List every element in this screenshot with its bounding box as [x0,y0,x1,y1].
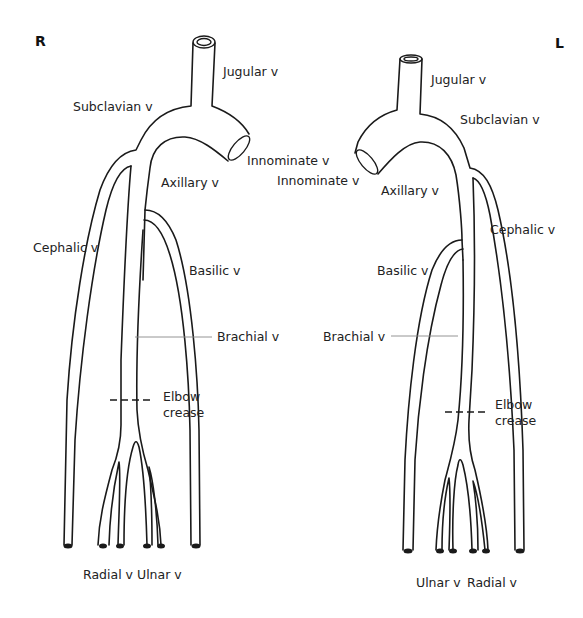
left-axillary-label: Axillary v [381,183,440,198]
right-elbow-label-line1: Elbow [163,389,200,404]
left-brachial-label: Brachial v [323,329,386,344]
left-inner-arch [378,142,463,260]
right-subclavian-label: Subclavian v [73,99,153,114]
right-radial-end-1 [99,544,107,549]
left-jugular-lumen [404,57,418,61]
right-basilic-end [192,544,201,549]
left-jugular-left-wall [355,59,400,153]
left-elbow-label-line2: crease [495,413,537,428]
left-elbow-label-line1: Elbow [495,397,532,412]
right-ulnar-end-2 [157,544,165,549]
left-arm-veins [353,55,525,554]
left-basilic-end [404,549,413,554]
right-axillary-label: Axillary v [161,175,220,190]
left-radial-end-2 [482,549,490,554]
right-elbow-label-line2: crease [163,405,205,420]
right-ulnar-end-1 [143,544,151,549]
right-basilic-label: Basilic v [189,263,241,278]
right-cephalic-inner [72,166,131,545]
left-ulnar-label: Ulnar v [416,575,461,590]
left-forearm-fork [453,460,472,550]
left-basilic-label: Basilic v [377,263,429,278]
right-jugular-lumen [197,39,211,46]
right-innominate-label: Innominate v [247,153,330,168]
right-cephalic-label: Cephalic v [33,240,99,255]
right-brachial-label: Brachial v [217,329,280,344]
right-side-marker: R [35,33,46,49]
left-jugular-label: Jugular v [430,72,487,87]
left-radial-label: Radial v [467,575,518,590]
right-radial-end-2 [116,544,124,549]
left-innominate-label: Innominate v [277,173,360,188]
left-radial-end-1 [469,549,477,554]
left-basilic-inner [413,249,463,550]
right-ulnar-label: Ulnar v [137,567,182,582]
left-brachial-right-wall [469,178,488,550]
left-cephalic-end [516,549,525,554]
right-forearm-fork [124,442,147,545]
right-radial-label: Radial v [83,567,134,582]
right-jugular-right-wall [212,43,249,134]
vein-diagram: R L [0,0,583,618]
right-cephalic-end [64,544,73,549]
right-jugular-label: Jugular v [222,64,279,79]
left-side-marker: L [555,35,564,51]
right-brachial-right-wall [137,230,161,545]
left-ulnar-end-2 [449,549,457,554]
left-subclavian-label: Subclavian v [460,112,540,127]
left-cephalic-label: Cephalic v [490,222,556,237]
right-inner-arch [143,137,228,280]
left-ulnar-end-1 [436,549,444,554]
